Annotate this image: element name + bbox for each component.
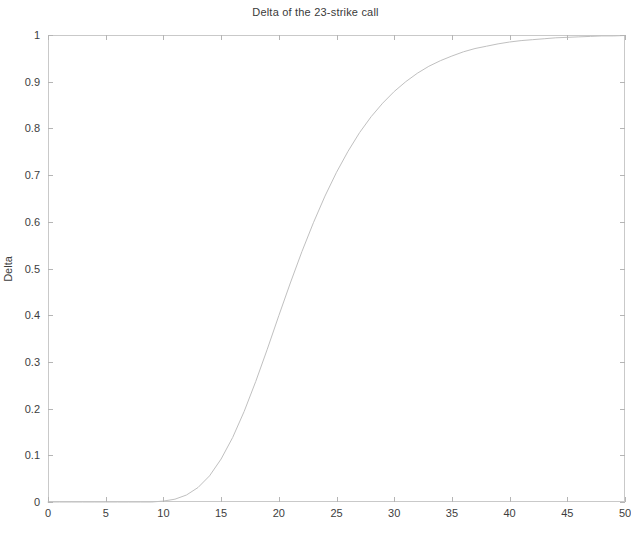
x-tick-mark — [163, 35, 164, 40]
delta-curve — [48, 35, 625, 502]
y-tick-mark — [620, 362, 625, 363]
x-tick-mark — [106, 35, 107, 40]
x-tick-label: 15 — [215, 507, 227, 519]
x-tick-mark — [337, 35, 338, 40]
x-tick-mark — [163, 497, 164, 502]
y-tick-label: 0.1 — [25, 449, 40, 461]
x-tick-mark — [452, 35, 453, 40]
x-tick-mark — [337, 497, 338, 502]
y-tick-label: 0 — [34, 496, 40, 508]
y-tick-mark — [48, 455, 53, 456]
figure-canvas: Delta of the 23-strike call 051015202530… — [0, 0, 631, 539]
y-tick-mark — [620, 455, 625, 456]
x-tick-mark — [394, 497, 395, 502]
x-tick-mark — [567, 35, 568, 40]
y-tick-label: 0.6 — [25, 216, 40, 228]
data-line-series — [48, 35, 625, 502]
x-tick-label: 50 — [619, 507, 631, 519]
chart-title: Delta of the 23-strike call — [0, 6, 631, 18]
x-tick-mark — [279, 35, 280, 40]
y-tick-label: 0.9 — [25, 76, 40, 88]
y-tick-label: 0.2 — [25, 403, 40, 415]
y-tick-mark — [48, 502, 53, 503]
x-tick-mark — [221, 35, 222, 40]
y-tick-mark — [620, 409, 625, 410]
y-tick-mark — [48, 35, 53, 36]
y-tick-mark — [48, 82, 53, 83]
y-tick-mark — [620, 82, 625, 83]
x-tick-label: 45 — [561, 507, 573, 519]
x-tick-mark — [510, 497, 511, 502]
x-tick-label: 0 — [45, 507, 51, 519]
x-tick-label: 10 — [157, 507, 169, 519]
y-tick-mark — [48, 315, 53, 316]
x-tick-label: 40 — [503, 507, 515, 519]
y-tick-label: 0.8 — [25, 122, 40, 134]
x-tick-mark — [625, 35, 626, 40]
y-axis-label: Delta — [2, 256, 14, 282]
x-tick-mark — [510, 35, 511, 40]
y-tick-mark — [620, 315, 625, 316]
y-tick-label: 0.4 — [25, 309, 40, 321]
y-tick-mark — [48, 175, 53, 176]
x-tick-label: 35 — [446, 507, 458, 519]
y-tick-mark — [620, 35, 625, 36]
x-tick-label: 30 — [388, 507, 400, 519]
y-tick-mark — [48, 409, 53, 410]
x-tick-mark — [625, 497, 626, 502]
y-tick-label: 0.3 — [25, 356, 40, 368]
x-tick-mark — [221, 497, 222, 502]
x-tick-label: 20 — [273, 507, 285, 519]
x-tick-mark — [452, 497, 453, 502]
x-tick-mark — [567, 497, 568, 502]
y-tick-mark — [620, 502, 625, 503]
x-tick-label: 5 — [103, 507, 109, 519]
y-tick-mark — [620, 175, 625, 176]
y-tick-label: 1 — [34, 29, 40, 41]
y-tick-label: 0.5 — [25, 263, 40, 275]
y-tick-mark — [48, 362, 53, 363]
y-tick-label: 0.7 — [25, 169, 40, 181]
y-tick-mark — [48, 269, 53, 270]
y-tick-mark — [620, 269, 625, 270]
y-tick-mark — [620, 128, 625, 129]
x-tick-mark — [279, 497, 280, 502]
x-tick-mark — [106, 497, 107, 502]
x-tick-mark — [394, 35, 395, 40]
y-tick-mark — [48, 128, 53, 129]
plot-axes-area: 05101520253035404550 00.10.20.30.40.50.6… — [48, 35, 625, 502]
x-tick-label: 25 — [330, 507, 342, 519]
y-tick-mark — [620, 222, 625, 223]
y-tick-mark — [48, 222, 53, 223]
